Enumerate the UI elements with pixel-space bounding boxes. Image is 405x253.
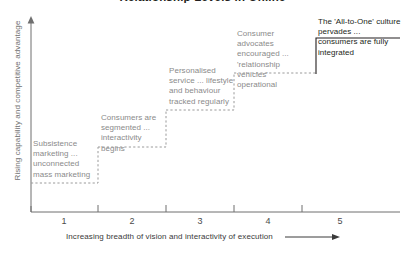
step-label-2: Consumers are segmented ... interactivit… xyxy=(101,113,167,154)
step-label-1: Subsistence marketing ... unconnected ma… xyxy=(33,139,97,180)
step-label-4: Consumer advocates encouraged ... 'relat… xyxy=(237,29,299,90)
x-axis-caption-text: Increasing breadth of vision and interac… xyxy=(66,232,273,241)
y-axis-label: Rising capability and competitive advant… xyxy=(13,6,22,196)
x-tick-2: 2 xyxy=(121,216,143,226)
x-axis xyxy=(31,205,400,212)
x-tick-1: 1 xyxy=(53,216,75,226)
relationship-levels-chart: Relationship Levels in Online xyxy=(0,0,405,253)
x-tick-4: 4 xyxy=(257,216,279,226)
y-axis-arrow-icon xyxy=(28,16,35,24)
x-axis-caption: Increasing breadth of vision and interac… xyxy=(66,232,341,241)
x-axis-arrow-icon xyxy=(285,233,341,241)
step-label-3: Personalised service ... lifestyle and b… xyxy=(169,66,234,107)
x-tick-3: 3 xyxy=(189,216,211,226)
step-label-5: The 'All-to-One' culture pervades ... co… xyxy=(318,17,402,58)
x-tick-5: 5 xyxy=(329,216,351,226)
